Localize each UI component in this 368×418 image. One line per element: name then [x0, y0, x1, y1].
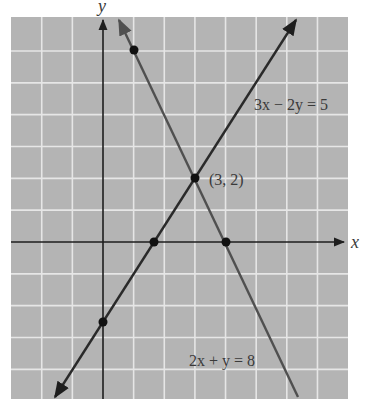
point-5-3-0: [150, 238, 159, 247]
linear-system-graph: y x 3x − 2y = 5 (3, 2) 2x + y = 8: [0, 0, 368, 418]
point-0-neg2-5: [99, 318, 108, 327]
intersection-label: (3, 2): [209, 171, 244, 189]
y-axis-label: y: [96, 0, 106, 16]
line2-label: 2x + y = 8: [189, 352, 255, 370]
point-1-6: [130, 46, 139, 55]
intersection-point: [191, 174, 200, 183]
x-axis-label: x: [350, 232, 359, 252]
grid-background: [11, 17, 348, 399]
point-4-0: [222, 238, 231, 247]
line1-label: 3x − 2y = 5: [254, 96, 328, 114]
